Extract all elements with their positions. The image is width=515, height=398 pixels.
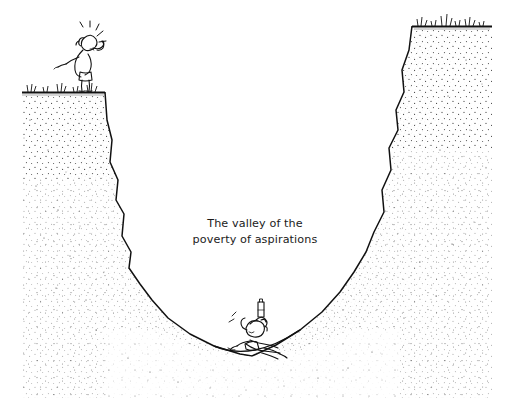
caption-line-2: poverty of aspirations	[193, 233, 318, 246]
illustration-canvas: The valley of the poverty of aspirations	[0, 0, 515, 398]
valley-illustration: The valley of the poverty of aspirations	[0, 0, 515, 398]
caption-line-1: The valley of the	[206, 217, 303, 230]
shouter-leg-back	[82, 80, 83, 91]
shouter-foot-front	[86, 91, 92, 92]
shouter-leg-front	[89, 80, 90, 91]
bottle-icon	[258, 299, 264, 317]
shouter-foot-back	[79, 91, 85, 92]
